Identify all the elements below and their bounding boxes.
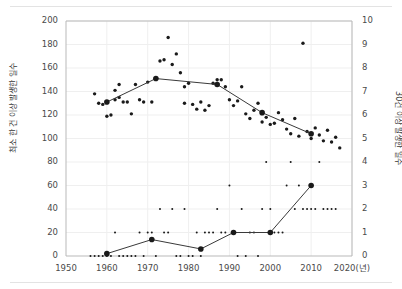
data-point (90, 255, 92, 257)
data-point (175, 52, 178, 55)
data-point (273, 232, 275, 234)
data-point (256, 102, 259, 105)
data-point (183, 85, 186, 88)
data-point (199, 100, 202, 103)
data-point (277, 232, 279, 234)
data-point (265, 161, 267, 163)
data-point (265, 116, 268, 119)
y-tick-right-6: 6 (362, 110, 392, 119)
bottom-rule (10, 282, 392, 283)
data-point (114, 232, 116, 234)
y-tick-right-1: 1 (362, 228, 392, 237)
data-point (220, 78, 223, 81)
y-tick-left-60: 60 (18, 181, 58, 190)
data-point (269, 123, 272, 126)
trend-marker (308, 183, 314, 189)
y-tick-left-0: 0 (18, 251, 58, 260)
data-point (97, 102, 100, 105)
data-point (248, 117, 251, 120)
data-point (179, 71, 182, 74)
top-rule (10, 6, 392, 7)
data-point (166, 36, 169, 39)
data-point (314, 126, 317, 129)
data-point (171, 208, 173, 210)
data-point (326, 129, 329, 132)
data-point (195, 107, 198, 110)
y-tick-left-160: 160 (18, 63, 58, 72)
data-point (261, 208, 263, 210)
trend-marker (231, 230, 237, 236)
data-point (240, 85, 243, 88)
data-point (122, 255, 124, 257)
y-tick-right-2: 2 (362, 204, 392, 213)
data-point (142, 100, 145, 103)
data-point (110, 255, 112, 257)
data-point (109, 113, 112, 116)
data-point (183, 102, 186, 105)
data-point (306, 208, 308, 210)
data-point (143, 255, 145, 257)
data-point (139, 232, 141, 234)
trend-marker (198, 246, 204, 252)
data-point (301, 42, 304, 45)
data-point (207, 104, 210, 107)
data-point (188, 255, 190, 257)
data-point (216, 208, 218, 210)
data-point (162, 58, 165, 61)
data-point (236, 99, 239, 102)
data-point (237, 255, 239, 257)
data-point (102, 255, 104, 257)
y-tick-left-20: 20 (18, 228, 58, 237)
data-point (158, 59, 161, 62)
data-point (334, 136, 337, 139)
data-point (330, 140, 333, 143)
data-point (105, 114, 108, 117)
data-point (204, 232, 206, 234)
data-point (101, 103, 104, 106)
y-tick-right-10: 10 (362, 16, 392, 25)
data-point (117, 83, 120, 86)
data-point (183, 208, 185, 210)
trend-marker (214, 82, 220, 88)
data-point (331, 208, 333, 210)
y-tick-left-120: 120 (18, 110, 58, 119)
data-point (118, 255, 120, 257)
data-point (297, 134, 300, 137)
y-axis-left-label: 최소 한 건 이상 발생한 일수 (10, 48, 18, 168)
data-point (179, 255, 181, 257)
y-tick-right-4: 4 (362, 157, 392, 166)
data-point (244, 112, 247, 115)
data-point (326, 208, 328, 210)
data-point (289, 132, 292, 135)
data-point (147, 232, 149, 234)
data-point (293, 117, 296, 120)
trend-marker (104, 99, 110, 105)
data-point (203, 109, 206, 112)
data-point (277, 111, 280, 114)
y-tick-left-80: 80 (18, 157, 58, 166)
data-point (314, 208, 316, 210)
trend-marker (104, 251, 110, 257)
chart-figure: 최소 한 건 이상 발생한 일수 30건 이상 발생한 일수 020406080… (0, 0, 402, 289)
trend-marker (153, 76, 159, 82)
y-tick-right-7: 7 (362, 87, 392, 96)
data-point (224, 232, 226, 234)
data-point (335, 208, 337, 210)
data-point (155, 255, 157, 257)
data-point (113, 89, 116, 92)
trend-line-series-3 (107, 186, 311, 254)
data-point (318, 133, 321, 136)
data-point (310, 208, 312, 210)
y-tick-left-200: 200 (18, 16, 58, 25)
data-point (138, 98, 141, 101)
data-point (98, 255, 100, 257)
data-point (196, 232, 198, 234)
y-tick-right-5: 5 (362, 134, 392, 143)
y-tick-left-100: 100 (18, 134, 58, 143)
data-point (260, 120, 263, 123)
data-point (94, 255, 96, 257)
y-tick-left-140: 140 (18, 87, 58, 96)
data-point (252, 109, 255, 112)
y-tick-right-8: 8 (362, 63, 392, 72)
data-point (282, 232, 284, 234)
